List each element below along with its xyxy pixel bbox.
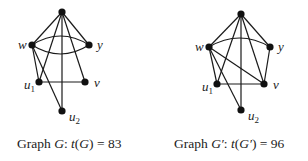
graph-g-prime: wyu1vu2 <box>195 10 284 125</box>
vertex-v <box>81 78 88 85</box>
caption-prefix: Graph <box>174 136 211 151</box>
edge-top-w <box>32 12 62 45</box>
caption-graph-g-prime: Graph G′: t(G′) = 96 <box>174 136 284 152</box>
vertex-label-u2: u2 <box>69 109 80 126</box>
function-arg: G <box>79 136 89 151</box>
edge-w-y <box>32 36 89 45</box>
vertex-v <box>260 80 267 87</box>
vertex-u1 <box>35 78 42 85</box>
caption-colon: : <box>64 136 71 151</box>
vertex-label-v: v <box>273 77 279 92</box>
caption-prefix: Graph <box>17 136 54 151</box>
vertex-label-u2: u2 <box>248 108 259 125</box>
edge-w-u2 <box>32 45 62 111</box>
spanning-tree-count: 83 <box>108 136 122 151</box>
edge-w-v <box>209 47 264 84</box>
edge-y-v <box>264 47 270 84</box>
edge-top-u1 <box>39 12 62 82</box>
edge-top-v <box>62 12 85 82</box>
vertex-label-u1: u1 <box>202 79 213 96</box>
graph-name: G <box>54 136 64 151</box>
vertex-top <box>237 10 244 17</box>
equals: = <box>94 136 108 151</box>
spanning-tree-count: 96 <box>271 136 285 151</box>
equals: = <box>256 136 270 151</box>
caption-colon: : <box>224 136 231 151</box>
vertex-label-y: y <box>276 39 284 54</box>
edge-w-u1 <box>209 47 217 84</box>
vertex-label-u1: u1 <box>24 77 35 94</box>
edge-top-w <box>209 14 241 47</box>
vertex-u2 <box>237 106 244 113</box>
graph-g: wyu1vu2 <box>18 8 103 126</box>
vertex-label-y: y <box>95 37 103 52</box>
vertex-label-w: w <box>195 39 204 54</box>
vertex-w <box>205 43 212 50</box>
edge-w-y <box>32 45 89 54</box>
vertex-y <box>85 41 92 48</box>
function-arg: G′ <box>239 136 252 151</box>
edge-w-y <box>209 38 270 47</box>
graph-name: G′ <box>211 136 224 151</box>
vertex-top <box>58 8 65 15</box>
vertex-u1 <box>213 80 220 87</box>
edge-top-y <box>62 12 89 45</box>
vertex-y <box>266 43 273 50</box>
caption-graph-g: Graph G: t(G) = 83 <box>17 136 121 152</box>
edge-w-u1 <box>32 45 39 82</box>
vertex-label-v: v <box>94 75 100 90</box>
edge-top-y <box>241 14 270 47</box>
edge-w-u2 <box>209 47 241 110</box>
vertex-label-w: w <box>18 37 27 52</box>
vertex-u2 <box>58 107 65 114</box>
edge-top-v <box>241 14 264 84</box>
vertex-w <box>28 41 35 48</box>
edge-top-u1 <box>217 14 241 84</box>
